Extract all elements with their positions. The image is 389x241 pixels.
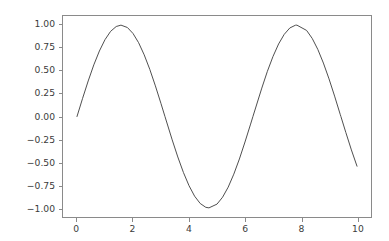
y-tick-label: 0.50 xyxy=(35,66,55,75)
matplotlib-figure: 1.000.750.500.250.00−0.25−0.50−0.75−1.00… xyxy=(0,0,389,241)
x-tick-label: 6 xyxy=(242,224,248,233)
y-tick-label: 0.25 xyxy=(35,89,55,98)
x-tick-mark xyxy=(76,218,77,222)
y-tick-label: −0.50 xyxy=(27,158,55,167)
x-tick-mark xyxy=(358,218,359,222)
x-tick-mark xyxy=(245,218,246,222)
y-tick-label: 0.00 xyxy=(35,112,55,121)
x-tick-mark xyxy=(132,218,133,222)
y-tick-label: −1.00 xyxy=(27,204,55,213)
line-series-sin xyxy=(77,25,357,208)
plot-axes xyxy=(62,15,372,218)
sine-curve-svg xyxy=(63,16,371,217)
y-tick-label: 0.75 xyxy=(35,43,55,52)
x-tick-label: 4 xyxy=(186,224,192,233)
x-tick-mark xyxy=(189,218,190,222)
y-tick-label: −0.75 xyxy=(27,181,55,190)
x-tick-mark xyxy=(302,218,303,222)
x-tick-label: 0 xyxy=(73,224,79,233)
x-tick-label: 8 xyxy=(299,224,305,233)
y-axis-tick-labels: 1.000.750.500.250.00−0.25−0.50−0.75−1.00 xyxy=(0,0,55,241)
x-tick-label: 10 xyxy=(352,224,364,233)
x-axis-tick-labels: 0246810 xyxy=(0,224,389,238)
y-tick-label: −0.25 xyxy=(27,135,55,144)
y-tick-label: 1.00 xyxy=(35,20,55,29)
x-tick-label: 2 xyxy=(130,224,136,233)
